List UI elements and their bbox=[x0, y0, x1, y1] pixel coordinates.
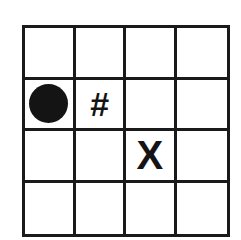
cell-r3-c1[interactable] bbox=[76, 183, 127, 235]
cell-r3-c0[interactable] bbox=[25, 183, 76, 235]
cell-r1-c0[interactable] bbox=[25, 80, 76, 132]
cell-r1-c2[interactable] bbox=[126, 80, 177, 132]
cell-r0-c1[interactable] bbox=[76, 28, 127, 80]
cell-r2-c0[interactable] bbox=[25, 131, 76, 183]
cell-r2-c3[interactable] bbox=[177, 131, 228, 183]
cell-r3-c3[interactable] bbox=[177, 183, 228, 235]
cell-r3-c2[interactable] bbox=[126, 183, 177, 235]
cell-r0-c2[interactable] bbox=[126, 28, 177, 80]
cell-r0-c3[interactable] bbox=[177, 28, 228, 80]
game-board: # X bbox=[22, 25, 230, 237]
cell-r1-c1[interactable]: # bbox=[76, 80, 127, 132]
cell-r2-c1[interactable] bbox=[76, 131, 127, 183]
player-circle-icon bbox=[29, 84, 68, 123]
target-x-icon: X bbox=[136, 135, 163, 175]
cell-r2-c2[interactable]: X bbox=[126, 131, 177, 183]
obstacle-hash-icon: # bbox=[90, 87, 109, 121]
cell-r0-c0[interactable] bbox=[25, 28, 76, 80]
cell-r1-c3[interactable] bbox=[177, 80, 228, 132]
